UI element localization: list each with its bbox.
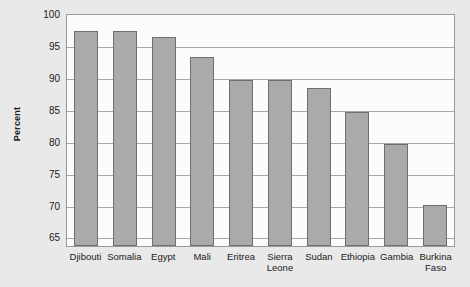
x-axis-tick-label: Sudan [299, 249, 338, 285]
bar[interactable] [268, 80, 292, 246]
x-axis-tick-label: Sierra Leone [261, 249, 300, 285]
bar-chart: Percent 65707580859095100 DjiboutiSomali… [0, 0, 470, 287]
bar[interactable] [307, 88, 331, 246]
x-axis-tick-label: Somalia [105, 249, 144, 285]
bar-slot [67, 15, 106, 246]
bar[interactable] [152, 37, 176, 246]
x-axis-tick-label: Mali [183, 249, 222, 285]
y-axis-tick-label: 75 [49, 168, 60, 179]
plot-area [66, 14, 455, 247]
y-axis-tick-label: 100 [43, 9, 60, 20]
bar-slot [106, 15, 145, 246]
y-axis-title: Percent [6, 0, 28, 247]
bar-slot [261, 15, 300, 246]
y-axis-tick-label: 90 [49, 72, 60, 83]
y-axis-tick-label: 95 [49, 40, 60, 51]
bar[interactable] [229, 80, 253, 246]
bar[interactable] [190, 57, 214, 246]
bar-slot [144, 15, 183, 246]
y-axis-title-text: Percent [12, 106, 22, 140]
bar-slot [183, 15, 222, 246]
bar[interactable] [384, 144, 408, 246]
bar[interactable] [74, 31, 98, 246]
y-axis-tick-labels: 65707580859095100 [26, 14, 60, 247]
x-axis-tick-labels: DjiboutiSomaliaEgyptMaliEritreaSierra Le… [66, 249, 455, 285]
y-axis-tick-label: 65 [49, 232, 60, 243]
bar-slot [415, 15, 454, 246]
x-axis-tick-label: Egypt [144, 249, 183, 285]
x-axis-tick-label: Djibouti [66, 249, 105, 285]
bar-slot [222, 15, 261, 246]
x-axis-tick-label: Gambia [377, 249, 416, 285]
bar-slot [377, 15, 416, 246]
bars-layer [67, 15, 454, 246]
bar-slot [299, 15, 338, 246]
y-axis-tick-label: 70 [49, 200, 60, 211]
bar[interactable] [345, 112, 369, 246]
bar[interactable] [423, 205, 447, 246]
bar[interactable] [113, 31, 137, 246]
y-axis-tick-label: 85 [49, 104, 60, 115]
x-axis-tick-label: Eritrea [222, 249, 261, 285]
x-axis-tick-label: Ethiopia [338, 249, 377, 285]
y-axis-tick-label: 80 [49, 136, 60, 147]
bar-slot [338, 15, 377, 246]
x-axis-tick-label: Burkina Faso [416, 249, 455, 285]
